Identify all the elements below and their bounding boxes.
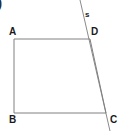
vertex-label-c: C bbox=[110, 115, 117, 125]
segment-dc bbox=[90, 39, 106, 113]
vertex-label-d: D bbox=[91, 27, 98, 37]
vertex-label-a: A bbox=[9, 27, 16, 37]
figure-canvas bbox=[0, 0, 123, 131]
vertex-label-b: B bbox=[9, 115, 16, 125]
line-label-s: s bbox=[85, 11, 89, 19]
cropped-text-fragment: ) bbox=[0, 0, 2, 9]
geometry-figure: ) A D B C s bbox=[0, 0, 123, 131]
